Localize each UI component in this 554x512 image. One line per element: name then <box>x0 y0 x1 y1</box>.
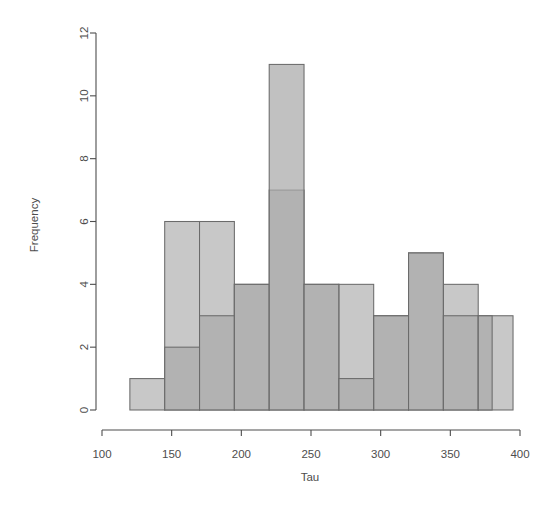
x-tick-label-250: 250 <box>301 448 320 460</box>
bar-dark-6 <box>374 316 409 410</box>
y-tick-label-4: 4 <box>78 281 90 288</box>
bar-dark-8 <box>443 316 478 410</box>
x-tick-label-100: 100 <box>92 448 111 460</box>
y-tick-label-8: 8 <box>78 155 90 161</box>
histogram-plot: 024681012 100150200250300350400 Frequenc… <box>0 0 554 512</box>
x-tick-label-400: 400 <box>510 448 529 460</box>
bar-dark-0 <box>165 347 200 410</box>
bar-dark-3 <box>269 64 304 410</box>
bar-dark-7 <box>409 253 444 410</box>
y-tick-label-12: 12 <box>78 27 90 40</box>
x-tick-label-350: 350 <box>441 448 460 460</box>
bar-dark-2 <box>234 284 269 410</box>
bar-dark-9 <box>478 316 492 410</box>
x-tick-label-300: 300 <box>371 448 390 460</box>
y-axis-title: Frequency <box>28 198 40 253</box>
bar-light-0 <box>130 379 165 410</box>
bar-dark-4 <box>304 284 339 410</box>
y-tick-label-6: 6 <box>78 218 90 224</box>
x-tick-label-150: 150 <box>162 448 181 460</box>
chart-canvas: 024681012 100150200250300350400 Frequenc… <box>0 0 554 512</box>
x-axis-title: Tau <box>301 471 320 483</box>
x-tick-label-200: 200 <box>232 448 251 460</box>
y-tick-label-10: 10 <box>78 89 90 102</box>
y-tick-label-0: 0 <box>78 407 90 413</box>
bar-dark-1 <box>200 316 235 410</box>
y-tick-label-2: 2 <box>78 344 90 350</box>
bar-dark-5 <box>339 379 374 410</box>
